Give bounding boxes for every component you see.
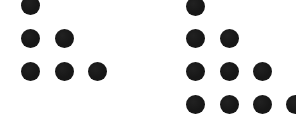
dot-marker [220, 29, 239, 48]
dot-marker [220, 62, 239, 81]
figure-canvas [0, 0, 296, 135]
dot-marker [186, 29, 205, 48]
dot-marker [186, 0, 205, 16]
dot-marker [253, 95, 272, 114]
dot-group-right-triangle [0, 0, 296, 135]
dot-marker [220, 95, 239, 114]
dot-marker [186, 62, 205, 81]
dot-marker [186, 95, 205, 114]
dot-marker [286, 95, 297, 114]
dot-marker [253, 62, 272, 81]
